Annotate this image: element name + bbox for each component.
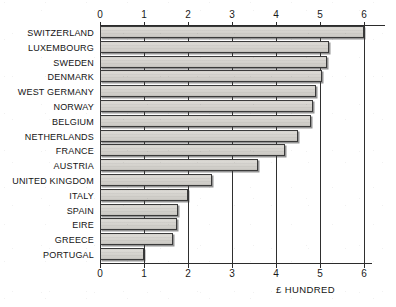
tick-label-top-4: 4 bbox=[266, 9, 286, 20]
category-label-italy: ITALY bbox=[0, 190, 94, 202]
bar-row bbox=[100, 144, 285, 156]
tick-label-top-3: 3 bbox=[222, 9, 242, 20]
bar-austria bbox=[100, 159, 258, 171]
bottom-axis-rule bbox=[100, 263, 372, 264]
bar-row bbox=[100, 189, 188, 201]
bar-united-kingdom bbox=[100, 174, 212, 186]
bar-norway bbox=[100, 100, 313, 112]
bar-row bbox=[100, 159, 258, 171]
category-label-portugal: PORTUGAL bbox=[0, 249, 94, 261]
bar-row bbox=[100, 85, 316, 97]
bar-row bbox=[100, 70, 322, 82]
bar-portugal bbox=[100, 248, 144, 260]
x-axis-title: £ HUNDRED bbox=[276, 284, 335, 295]
bar-denmark bbox=[100, 70, 322, 82]
category-label-sweden: SWEDEN bbox=[0, 57, 94, 69]
bar-row bbox=[100, 174, 212, 186]
bar-row bbox=[100, 56, 327, 68]
bar-row bbox=[100, 218, 177, 230]
category-label-spain: SPAIN bbox=[0, 205, 94, 217]
category-label-greece: GREECE bbox=[0, 234, 94, 246]
category-label-netherlands: NETHERLANDS bbox=[0, 131, 94, 143]
tick-label-bottom-1: 1 bbox=[134, 268, 154, 279]
category-label-austria: AUSTRIA bbox=[0, 160, 94, 172]
bar-row bbox=[100, 26, 364, 38]
category-label-luxembourg: LUXEMBOURG bbox=[0, 42, 94, 54]
bar-row bbox=[100, 115, 311, 127]
bar-eire bbox=[100, 218, 177, 230]
bar-netherlands bbox=[100, 130, 298, 142]
category-label-eire: EIRE bbox=[0, 219, 94, 231]
bar-row bbox=[100, 248, 144, 260]
bar-france bbox=[100, 144, 285, 156]
bar-west-germany bbox=[100, 85, 316, 97]
bar-sweden bbox=[100, 56, 327, 68]
tick-top-6 bbox=[364, 22, 365, 27]
category-label-united-kingdom: UNITED KINGDOM bbox=[0, 175, 94, 187]
tick-label-bottom-0: 0 bbox=[90, 268, 110, 279]
bar-row bbox=[100, 41, 329, 53]
category-label-norway: NORWAY bbox=[0, 101, 94, 113]
tick-label-top-6: 6 bbox=[354, 9, 374, 20]
bar-italy bbox=[100, 189, 188, 201]
tick-label-bottom-4: 4 bbox=[266, 268, 286, 279]
bar-row bbox=[100, 204, 178, 216]
tick-label-bottom-6: 6 bbox=[354, 268, 374, 279]
category-label-west-germany: WEST GERMANY bbox=[0, 86, 94, 98]
bar-row bbox=[100, 130, 298, 142]
category-label-switzerland: SWITZERLAND bbox=[0, 27, 94, 39]
tick-label-bottom-5: 5 bbox=[310, 268, 330, 279]
gridline-6 bbox=[364, 26, 365, 263]
tick-label-top-0: 0 bbox=[90, 9, 110, 20]
tick-label-top-2: 2 bbox=[178, 9, 198, 20]
category-label-denmark: DENMARK bbox=[0, 71, 94, 83]
bar-row bbox=[100, 233, 173, 245]
bar-belgium bbox=[100, 115, 311, 127]
bar-spain bbox=[100, 204, 178, 216]
bar-switzerland bbox=[100, 26, 364, 38]
bar-chart: 00112233445566 SWITZERLANDLUXEMBOURGSWED… bbox=[0, 0, 396, 307]
category-label-belgium: BELGIUM bbox=[0, 116, 94, 128]
category-label-france: FRANCE bbox=[0, 145, 94, 157]
bar-row bbox=[100, 100, 313, 112]
bar-luxembourg bbox=[100, 41, 329, 53]
tick-label-bottom-2: 2 bbox=[178, 268, 198, 279]
tick-label-top-1: 1 bbox=[134, 9, 154, 20]
tick-label-top-5: 5 bbox=[310, 9, 330, 20]
bar-greece bbox=[100, 233, 173, 245]
tick-label-bottom-3: 3 bbox=[222, 268, 242, 279]
